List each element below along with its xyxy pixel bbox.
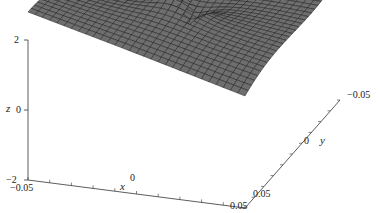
z-axis-label: z <box>6 102 10 114</box>
y-axis-label: y <box>320 134 325 146</box>
x-tick-right: 0.05 <box>230 200 248 211</box>
y-tick-near: 0.05 <box>253 188 271 199</box>
x-axis-label: x <box>120 180 125 192</box>
surface-plot: 2 0 −2 z −0.05 0 0.05 x 0.05 0 −0.05 y <box>0 0 379 213</box>
z-tick-top: 2 <box>14 34 19 45</box>
z-tick-mid: 0 <box>16 104 21 115</box>
plot-canvas <box>0 0 379 213</box>
surface-mesh <box>28 0 340 96</box>
y-tick-far: −0.05 <box>347 89 370 100</box>
x-tick-left: −0.05 <box>10 182 33 193</box>
y-tick-mid: 0 <box>304 135 309 146</box>
x-tick-mid: 0 <box>130 172 135 183</box>
